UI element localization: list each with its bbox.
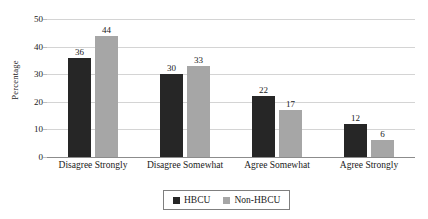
- legend-swatch-icon: [173, 197, 180, 204]
- bar-group: 126: [323, 19, 415, 157]
- x-axis-category-label: Agree Somewhat: [231, 160, 323, 176]
- bar-chart: Percentage 01020304050 364430332217126 D…: [0, 0, 428, 219]
- bar[interactable]: [344, 124, 367, 157]
- bar-slot: 17: [279, 19, 302, 157]
- bar-slot: 30: [160, 19, 183, 157]
- bar-value-label: 22: [259, 85, 268, 95]
- bar-group-bars: 3033: [139, 19, 231, 157]
- legend-item[interactable]: HBCU: [173, 195, 210, 205]
- bar-group: 3644: [47, 19, 139, 157]
- x-axis-category-label: Disagree Strongly: [47, 160, 139, 176]
- y-axis-tick-label: 40: [3, 42, 43, 52]
- y-axis-tick-label: 20: [3, 97, 43, 107]
- legend-swatch-icon: [223, 197, 230, 204]
- bar-group-bars: 2217: [231, 19, 323, 157]
- axis-baseline: [47, 157, 415, 158]
- x-axis-labels: Disagree StronglyDisagree SomewhatAgree …: [47, 160, 415, 176]
- bar[interactable]: [279, 110, 302, 157]
- x-axis-category-label: Disagree Somewhat: [139, 160, 231, 176]
- bar-group-bars: 126: [323, 19, 415, 157]
- bar-value-label: 36: [75, 47, 84, 57]
- bar-group: 2217: [231, 19, 323, 157]
- bar[interactable]: [68, 58, 91, 157]
- bar-group: 3033: [139, 19, 231, 157]
- bar-value-label: 6: [380, 129, 385, 139]
- bar[interactable]: [187, 66, 210, 157]
- bar[interactable]: [252, 96, 275, 157]
- bar-value-label: 17: [286, 99, 295, 109]
- bar-slot: 12: [344, 19, 367, 157]
- y-axis-tick-label: 0: [3, 152, 43, 162]
- legend-item-label: HBCU: [184, 195, 210, 205]
- legend-item[interactable]: Non-HBCU: [223, 195, 280, 205]
- bar-slot: 33: [187, 19, 210, 157]
- bar-slot: 6: [371, 19, 394, 157]
- bar[interactable]: [160, 74, 183, 157]
- y-axis-tick-label: 30: [3, 69, 43, 79]
- bar-value-label: 44: [102, 25, 111, 35]
- bar-slot: 36: [68, 19, 91, 157]
- bar-slot: 44: [95, 19, 118, 157]
- x-axis-category-label: Agree Strongly: [323, 160, 415, 176]
- y-axis-tick-label: 10: [3, 124, 43, 134]
- plot-area: 364430332217126: [47, 19, 415, 157]
- chart-legend: HBCUNon-HBCU: [163, 190, 290, 210]
- legend-item-label: Non-HBCU: [234, 195, 280, 205]
- bar-groups: 364430332217126: [47, 19, 415, 157]
- bar-value-label: 33: [194, 55, 203, 65]
- y-axis-tick-label: 50: [3, 14, 43, 24]
- bar-value-label: 30: [167, 63, 176, 73]
- y-axis-ticks: 01020304050: [0, 19, 43, 157]
- bar-slot: 22: [252, 19, 275, 157]
- bar-value-label: 12: [351, 113, 360, 123]
- bar[interactable]: [95, 36, 118, 157]
- bar[interactable]: [371, 140, 394, 157]
- bar-group-bars: 3644: [47, 19, 139, 157]
